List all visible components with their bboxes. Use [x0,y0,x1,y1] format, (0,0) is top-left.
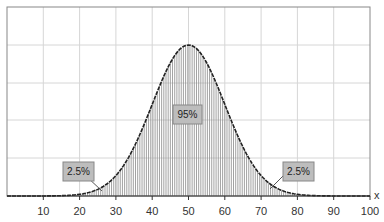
right-tail-label: 2.5% [287,166,310,177]
right-tail-leader [270,176,283,189]
left-tail-label-box: 2.5% [63,162,94,181]
x-tick-label: 90 [328,205,340,217]
x-tick-label: 80 [291,205,303,217]
normal-distribution-chart: 102030405060708090100 x 95% 2.5% 2.5% [0,0,384,222]
x-tick-label: 100 [361,205,379,217]
left-tail-label: 2.5% [67,166,90,177]
x-tick-label: 70 [255,205,267,217]
x-tick-label: 40 [146,205,158,217]
grid [7,7,370,196]
x-tick-label: 20 [73,205,85,217]
right-tail-label-box: 2.5% [283,162,314,181]
x-axis-label: x [374,189,380,201]
x-tick-label: 50 [182,205,194,217]
x-tick-label: 10 [37,205,49,217]
center-label: 95% [177,109,197,120]
x-axis-ticks: 102030405060708090100 [37,196,379,217]
x-tick-label: 60 [219,205,231,217]
center-label-box: 95% [173,105,202,124]
x-tick-label: 30 [110,205,122,217]
